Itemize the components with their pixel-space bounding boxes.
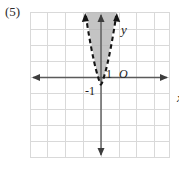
figure-number-label: (5) [5, 4, 20, 20]
graph-drawing [30, 12, 170, 158]
origin-label: O [119, 67, 128, 82]
tick-label-x-negative-one: -1 [85, 84, 95, 99]
x-axis-label: x [177, 90, 179, 106]
y-axis-label: y [121, 22, 127, 38]
tick-label-y-one: 1 [106, 67, 112, 82]
parabola-figure: (5) [0, 0, 179, 169]
plot-area: y x O 1 -1 [30, 12, 170, 158]
